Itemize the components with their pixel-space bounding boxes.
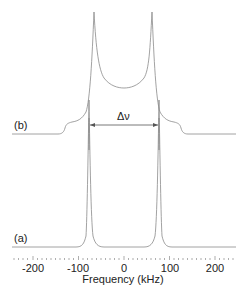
series-label-a: (a)	[14, 232, 27, 244]
x-axis-title: Frequency (kHz)	[0, 273, 246, 285]
delta-nu-annotation	[89, 118, 159, 150]
nmr-spectrum-chart	[0, 0, 246, 296]
series-label-b: (b)	[14, 119, 27, 131]
delta-nu-label: Δν	[117, 110, 130, 122]
spectrum-a-line	[12, 100, 236, 247]
x-axis	[12, 256, 236, 260]
